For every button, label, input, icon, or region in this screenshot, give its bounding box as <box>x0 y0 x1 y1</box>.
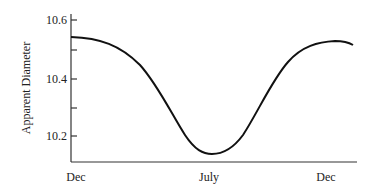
data-line <box>71 37 353 154</box>
y-axis-label: Apparent Diameter <box>19 42 33 134</box>
y-tick-label: 10.6 <box>46 13 67 27</box>
x-tick-label: Dec <box>66 170 85 184</box>
chart: 10.6 10.4 10.2 Apparent Diameter Dec Jul… <box>0 0 374 192</box>
y-tick-label: 10.2 <box>46 129 67 143</box>
x-axis: Dec July Dec <box>66 162 357 184</box>
y-axis: 10.6 10.4 10.2 Apparent Diameter <box>19 13 77 162</box>
x-tick-label: July <box>199 170 219 184</box>
y-tick-label: 10.4 <box>46 72 67 86</box>
x-tick-label: Dec <box>316 170 335 184</box>
